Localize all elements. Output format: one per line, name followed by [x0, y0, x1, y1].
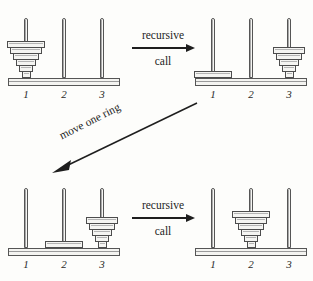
arrow-top-recursive-call: recursive call	[130, 28, 196, 69]
panel-top-left: 1 2 3	[8, 8, 120, 100]
peg-label-3: 3	[93, 88, 111, 100]
arrow-right-icon	[130, 43, 196, 53]
board-base	[8, 78, 120, 86]
ring-size-1	[247, 241, 256, 248]
arrow-bottom-label-line1: recursive	[130, 198, 196, 212]
hanoi-board: 1 2 3	[8, 178, 120, 270]
board-base	[195, 78, 307, 86]
ring-size-1	[285, 71, 294, 78]
arrow-bottom-recursive-call: recursive call	[130, 198, 196, 239]
arrow-right-icon	[130, 213, 196, 223]
peg-2	[62, 188, 66, 248]
hanoi-board: 1 2 3	[195, 8, 307, 100]
arrow-top-label-line2: call	[130, 54, 196, 68]
ring-size-1	[98, 241, 107, 248]
board-base	[195, 248, 307, 256]
hanoi-board: 1 2 3	[195, 178, 307, 270]
hanoi-board: 1 2 3	[8, 8, 120, 100]
arrow-bottom-label-line2: call	[130, 224, 196, 238]
peg-label-1: 1	[17, 258, 35, 270]
board-base	[8, 248, 120, 256]
peg-1	[211, 18, 215, 78]
peg-3	[287, 188, 291, 248]
arrow-top-label-line1: recursive	[130, 28, 196, 42]
peg-2	[249, 18, 253, 78]
peg-label-2: 2	[242, 88, 260, 100]
hanoi-figure: 1 2 3 1 2 3 1 2 3	[0, 0, 313, 281]
peg-label-1: 1	[17, 88, 35, 100]
peg-3	[100, 18, 104, 78]
peg-label-2: 2	[55, 258, 73, 270]
panel-top-right: 1 2 3	[195, 8, 307, 100]
peg-label-3: 3	[280, 258, 298, 270]
peg-1	[24, 188, 28, 248]
panel-bottom-right: 1 2 3	[195, 178, 307, 270]
peg-label-1: 1	[204, 258, 222, 270]
ring-size-6	[194, 71, 232, 78]
arrow-diagonal-move-one-ring: move one ring	[42, 100, 202, 176]
peg-label-2: 2	[242, 258, 260, 270]
ring-size-1	[22, 71, 31, 78]
panel-bottom-left: 1 2 3	[8, 178, 120, 270]
peg-label-3: 3	[280, 88, 298, 100]
peg-label-2: 2	[55, 88, 73, 100]
peg-1	[211, 188, 215, 248]
peg-2	[62, 18, 66, 78]
ring-size-6	[45, 241, 83, 248]
peg-label-3: 3	[93, 258, 111, 270]
peg-label-1: 1	[204, 88, 222, 100]
